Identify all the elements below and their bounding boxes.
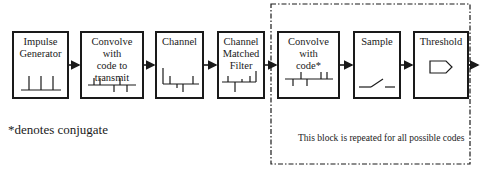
channel-response-icon	[159, 66, 201, 94]
block-label: Sample	[355, 36, 399, 48]
label-line: Matched	[219, 48, 263, 60]
block-label: Channel Matched Filter	[219, 36, 263, 72]
label-line: Sample	[355, 36, 399, 48]
block-convolve-transmit: Convolve with code to transmit	[80, 31, 144, 99]
label-line: Channel	[219, 36, 263, 48]
switch-icon	[357, 75, 397, 89]
block-matched-filter: Channel Matched Filter	[217, 31, 265, 99]
impulse-train-icon	[19, 73, 63, 93]
label-line: Convolve with	[82, 36, 142, 60]
block-sample: Sample	[353, 31, 401, 99]
conjugate-code-sequence-icon	[283, 69, 335, 89]
block-label: Impulse Generator	[14, 36, 67, 60]
block-label: Convolve with code*	[279, 36, 338, 72]
coded-sequence-icon	[86, 75, 138, 95]
block-label: Threshold	[415, 36, 467, 48]
matched-response-icon	[220, 70, 262, 96]
threshold-pentagon-icon	[428, 59, 454, 75]
block-impulse-generator: Impulse Generator	[12, 31, 69, 99]
footnote-conjugate: *denotes conjugate	[8, 122, 108, 138]
label-line: code to	[82, 60, 142, 72]
block-convolve-conjugate: Convolve with code*	[277, 31, 340, 99]
repeat-block-note: This block is repeated for all possible …	[298, 133, 464, 143]
label-line: Convolve with	[279, 36, 338, 60]
label-line: Channel	[157, 36, 202, 48]
label-line: Threshold	[415, 36, 467, 48]
label-line: Impulse	[14, 36, 67, 48]
label-line: Generator	[14, 48, 67, 60]
block-label: Channel	[157, 36, 202, 48]
block-channel: Channel	[155, 31, 204, 99]
block-threshold: Threshold	[413, 31, 469, 99]
